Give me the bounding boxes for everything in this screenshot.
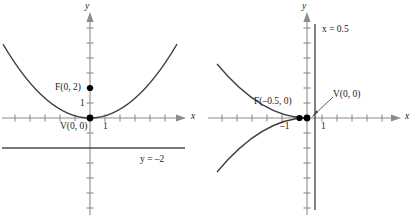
focus-point <box>296 115 302 121</box>
focus-label: F(–0.5, 0) <box>254 97 292 107</box>
figure-leftward-parabola: x y F(–0.5, 0) V(0, 0) –1 1 x = 0.5 <box>205 0 413 219</box>
x-tick-label-1: 1 <box>321 122 326 132</box>
vertex-label: V(0, 0) <box>333 90 360 100</box>
y-axis <box>86 12 93 215</box>
figure-upward-parabola: x y F(0, 2) V(0, 0) 1 1 y = –2 <box>0 0 205 219</box>
vertex-label: V(0, 0) <box>60 122 87 132</box>
vertex-point <box>87 115 94 122</box>
y-axis <box>303 12 310 215</box>
directrix-label: y = –2 <box>140 155 164 165</box>
x-axis-label: x <box>191 112 195 122</box>
x-tick-label-negative-1: –1 <box>280 122 290 132</box>
y-tick-label-1: 1 <box>80 99 85 109</box>
y-axis-label: y <box>302 2 306 12</box>
directrix-label: x = 0.5 <box>322 25 349 35</box>
vertex-point <box>304 115 311 122</box>
x-tick-label-1: 1 <box>103 122 108 132</box>
y-axis-label: y <box>85 2 89 12</box>
x-axis-label: x <box>405 112 409 122</box>
upward-parabola-plot <box>0 0 205 219</box>
focus-label: F(0, 2) <box>55 83 81 93</box>
leftward-parabola-plot <box>205 0 413 219</box>
focus-point <box>87 85 93 91</box>
